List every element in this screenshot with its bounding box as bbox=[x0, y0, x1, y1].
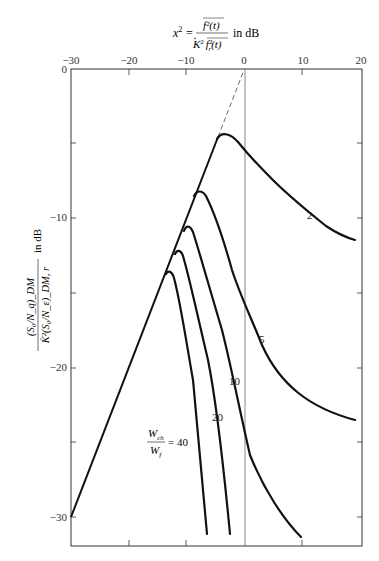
x-title-eq: = bbox=[186, 26, 193, 40]
x-tick-label: −20 bbox=[120, 54, 138, 66]
x-axis-title: x2 = f²(t) K2f2r(t) in dB bbox=[172, 18, 259, 53]
curve-label-2: 2 bbox=[307, 209, 313, 221]
curve-label-10: 10 bbox=[229, 375, 241, 387]
x-tick-label: 0 bbox=[241, 54, 247, 66]
chart-canvas: x2 = f²(t) K2f2r(t) in dB −30 −20 −10 0 … bbox=[0, 0, 379, 561]
parameter-label: Wch Wf = 40 bbox=[147, 427, 188, 459]
y-tick-labels: 0 −10 −20 −30 bbox=[50, 63, 68, 523]
y-tick-label: 0 bbox=[62, 63, 68, 75]
y-title-denominator: K̇²(S₀/N_ε)_DM, r bbox=[40, 266, 52, 344]
k-dot-accent bbox=[194, 38, 196, 40]
x-tick-label: −10 bbox=[177, 54, 195, 66]
x-title-denominator: K2f2r(t) bbox=[192, 38, 222, 53]
param-numerator: Wch bbox=[148, 427, 164, 442]
y-axis-title: (S₀/N_q)_DM K̇²(S₀/N_ε)_DM, r in dB bbox=[25, 229, 52, 351]
curve-2 bbox=[217, 134, 355, 240]
param-denominator: Wf bbox=[150, 444, 162, 459]
x-tick-labels: −30 −20 −10 0 10 20 bbox=[62, 54, 367, 66]
y-tick-label: −30 bbox=[50, 511, 68, 523]
curve-40 bbox=[166, 272, 207, 534]
asymptote-dashed-line bbox=[218, 70, 244, 137]
y-tick-label: −20 bbox=[50, 361, 68, 373]
y-tick-label: −10 bbox=[50, 211, 68, 223]
x-tick-label: 10 bbox=[298, 54, 310, 66]
x-title-unit: in dB bbox=[233, 26, 259, 40]
x-tick-label: 20 bbox=[356, 54, 368, 66]
curve-10 bbox=[184, 227, 301, 537]
param-value: = 40 bbox=[168, 436, 188, 448]
x-title-numerator: f²(t) bbox=[203, 19, 220, 32]
curve-label-20: 20 bbox=[212, 411, 224, 423]
curve-5 bbox=[194, 192, 355, 421]
y-title-unit: in dB bbox=[31, 229, 43, 253]
y-title-numerator: (S₀/N_q)_DM bbox=[25, 277, 37, 336]
curve-label-5: 5 bbox=[259, 333, 265, 345]
x-title-lhs: x2 bbox=[172, 25, 182, 40]
